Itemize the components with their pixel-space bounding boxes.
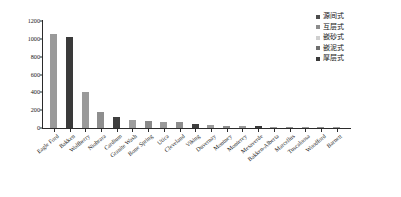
bar [333, 127, 340, 128]
x-tick-mark [195, 129, 196, 132]
bar [50, 34, 57, 128]
bar [176, 122, 183, 128]
x-tick-mark [164, 129, 165, 132]
bar [97, 112, 104, 128]
legend-swatch-icon [316, 25, 320, 29]
plot-area: 020040060080010001200 [42, 21, 350, 128]
x-tick-label: Barnett [325, 133, 342, 149]
x-tick-mark [180, 129, 181, 132]
legend-item-label: 嵌砂式 [323, 34, 344, 41]
bar [129, 120, 136, 128]
legend: 源间式互层式嵌砂式嵌泥式厚层式 [316, 13, 344, 62]
legend-item[interactable]: 嵌泥式 [316, 45, 344, 52]
legend-item-label: 互层式 [323, 24, 344, 31]
bar [82, 92, 89, 128]
x-tick-mark [211, 129, 212, 132]
bar [255, 126, 262, 128]
legend-item-label: 厚层式 [323, 55, 344, 62]
bar [239, 126, 246, 128]
x-tick-label: Eagle Ford [35, 133, 59, 155]
x-tick-mark [85, 129, 86, 132]
legend-item[interactable]: 厚层式 [316, 55, 344, 62]
y-tick-label: 200 [31, 107, 40, 113]
x-tick-mark [242, 129, 243, 132]
y-tick-label: 800 [31, 54, 40, 60]
bar [317, 127, 324, 128]
y-tick-label: 1000 [28, 36, 40, 42]
legend-item[interactable]: 互层式 [316, 24, 344, 31]
legend-swatch-icon [316, 36, 320, 40]
y-tick-label: 400 [31, 89, 40, 95]
bar [66, 37, 73, 128]
bar [160, 122, 167, 128]
bar [270, 127, 277, 128]
legend-item[interactable]: 源间式 [316, 13, 344, 20]
x-tick-mark [258, 129, 259, 132]
legend-swatch-icon [316, 57, 320, 61]
bar-chart: 产量(104bbl/d) 020040060080010001200 Eagle… [0, 0, 401, 197]
bar-series [42, 21, 350, 128]
legend-item-label: 嵌泥式 [323, 45, 344, 52]
bar [223, 126, 230, 128]
y-tick-label: 0 [37, 125, 40, 131]
legend-item[interactable]: 嵌砂式 [316, 34, 344, 41]
x-tick-mark [337, 129, 338, 132]
y-tick-label: 600 [31, 71, 40, 77]
bar [145, 121, 152, 128]
x-tick-mark [117, 129, 118, 132]
bar [286, 127, 293, 128]
x-tick-mark [321, 129, 322, 132]
bar [302, 127, 309, 128]
x-tick-mark [148, 129, 149, 132]
x-axis-ticks-labels: Eagle FordBakkenWolfberryNiobraraCardium… [42, 129, 351, 195]
y-tick-label: 1200 [28, 18, 40, 24]
legend-swatch-icon [316, 46, 320, 50]
legend-item-label: 源间式 [323, 13, 344, 20]
bar [192, 124, 199, 128]
x-tick-mark [290, 129, 291, 132]
bar [207, 125, 214, 128]
x-tick-mark [54, 129, 55, 132]
x-tick-mark [132, 129, 133, 132]
legend-swatch-icon [316, 15, 320, 19]
y-axis-title: 产量(104bbl/d) [0, 0, 7, 18]
bar [113, 117, 120, 128]
x-tick-mark [70, 129, 71, 132]
x-tick-mark [101, 129, 102, 132]
x-tick-mark [227, 129, 228, 132]
x-tick-mark [305, 129, 306, 132]
x-tick-mark [274, 129, 275, 132]
